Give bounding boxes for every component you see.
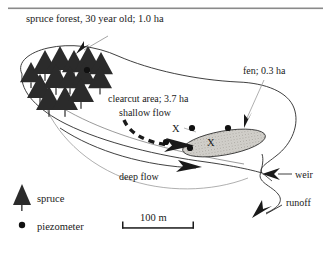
clearcut-area-label: clearcut area; 3.7 ha xyxy=(108,94,189,104)
runoff-arrowhead xyxy=(252,200,272,218)
fen-area-label: fen; 0.3 ha xyxy=(243,66,286,76)
catchment-boundary-lower xyxy=(22,74,262,173)
weir-label: weir xyxy=(295,170,313,180)
spruce-tree-trunk xyxy=(44,74,45,81)
spruce-tree-trunk xyxy=(80,102,81,109)
deep-flow-label: deep flow xyxy=(119,172,159,182)
piezometer-dot-icon xyxy=(225,125,231,131)
piezometer-dot-icon xyxy=(84,67,90,73)
scale-bar-label: 100 m xyxy=(140,213,167,224)
runoff-leader-line xyxy=(266,205,282,214)
runoff-label: runoff xyxy=(286,198,311,208)
outlet-channel xyxy=(261,154,263,172)
top-rule xyxy=(8,8,323,10)
x-marker-inner-label: X xyxy=(207,138,215,149)
spruce-tree-trunk xyxy=(99,88,100,94)
legend-spruce-label: spruce xyxy=(37,194,64,205)
spruce-tree-trunk xyxy=(69,88,70,94)
weir-leader-arrowhead xyxy=(262,168,280,180)
shallow-flow-arrow xyxy=(124,120,168,145)
piezometer-dot-icon xyxy=(163,139,169,145)
fen-leader-arrowhead xyxy=(244,112,252,128)
spruce-tree-trunk xyxy=(48,110,49,117)
forest-title-label: spruce forest, 30 year old; 1.0 ha xyxy=(26,14,164,25)
spruce-forest-group xyxy=(20,46,113,117)
piezometer-dot-icon xyxy=(189,125,195,131)
x-marker-outer-label: X xyxy=(172,124,180,135)
deep-flow-arrowhead xyxy=(176,160,202,172)
legend-piezometer-label: piezometer xyxy=(37,222,84,233)
spruce-tree-trunk xyxy=(30,82,31,88)
spruce-tree-trunk xyxy=(64,110,65,117)
spruce-tree-trunk xyxy=(55,88,56,95)
legend-spruce-icon xyxy=(13,184,31,211)
fen-leader-line xyxy=(247,80,264,118)
shallow-flow-label: shallow flow xyxy=(119,108,171,118)
legend-piezometer-icon xyxy=(19,222,25,228)
piezometer-dot-icon xyxy=(187,145,193,151)
